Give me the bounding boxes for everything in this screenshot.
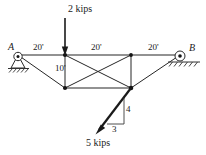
slope-rise-label: 4 [126,105,131,114]
inclined-load-label: 5 kips [86,138,110,148]
dimension-height: 10' [55,64,66,73]
joint-node-bottom-left [63,86,67,90]
dimension-span-1: 20' [33,43,44,52]
vertical-load-arrow [62,18,68,56]
support-label-b: B [189,43,195,53]
right-end-diagonal-member [131,55,180,88]
dimension-span-3: 20' [148,43,159,52]
support-label-a: A [8,42,14,52]
truss-diagram-svg [0,0,206,155]
dimension-span-2: 20' [91,43,102,52]
joint-node-top-right [129,53,133,57]
truss-diagram-figure: 2 kips 5 kips A B 20' 20' 20' 10' 4 3 [0,0,206,155]
right-support-hatching [169,62,198,67]
right-roller-support [168,51,200,67]
slope-run-label: 3 [112,125,117,134]
left-support-hatching [9,69,29,73]
vertical-load-label: 2 kips [68,4,92,14]
